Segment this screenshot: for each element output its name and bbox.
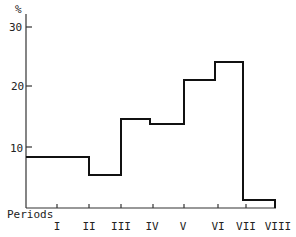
step-series	[26, 62, 275, 208]
x-axis-title: Periods	[7, 208, 53, 221]
x-label-VII: VII	[236, 220, 256, 233]
x-label-III: III	[111, 220, 131, 233]
y-label-20: 20	[11, 80, 24, 93]
x-label-II: II	[82, 220, 95, 233]
y-label-30: 30	[9, 21, 22, 34]
y-label-10: 10	[10, 142, 23, 155]
x-label-VI: VI	[211, 220, 224, 233]
x-label-I: I	[54, 220, 61, 233]
step-chart: % 30 20 10 Periods I II III IV V VI VII …	[0, 0, 296, 237]
x-label-IV: IV	[145, 220, 159, 233]
x-label-VIII: VIII	[265, 220, 292, 233]
x-label-V: V	[180, 220, 187, 233]
y-unit-label: %	[15, 3, 22, 16]
